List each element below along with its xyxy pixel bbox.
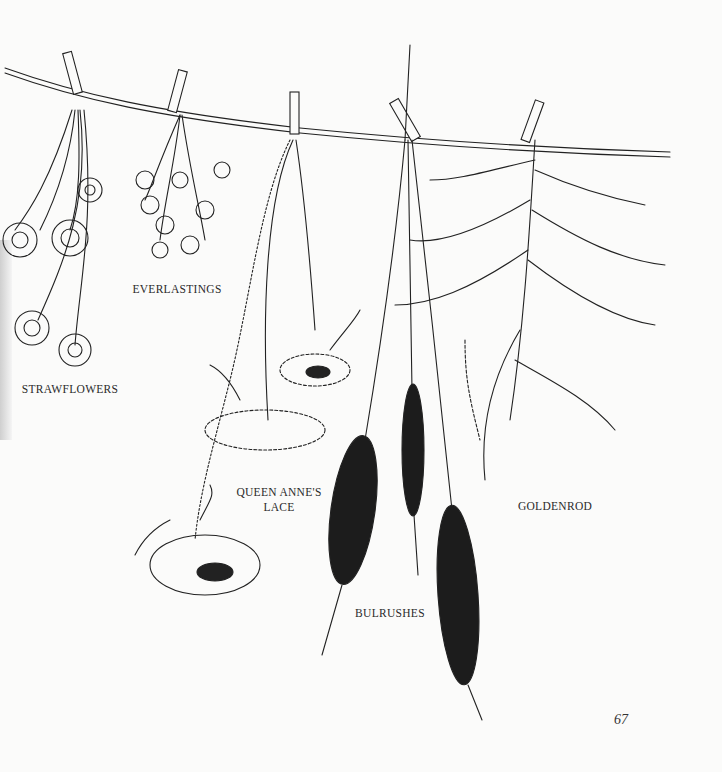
label-goldenrod: GOLDENROD: [510, 499, 600, 514]
label-queen-annes-lace: QUEEN ANNE'S LACE: [224, 485, 334, 515]
strawflowers-drawing: [3, 110, 102, 366]
goldenrod-drawing: [395, 140, 665, 480]
clothesline: [5, 68, 670, 152]
label-strawflowers: STRAWFLOWERS: [15, 382, 125, 397]
queen-annes-lace-drawing: [135, 140, 360, 595]
everlastings-drawing: [136, 115, 230, 258]
label-queen-annes-lace-line1: QUEEN ANNE'S: [224, 485, 334, 500]
page-number: 67: [614, 712, 628, 728]
book-page: EVERLASTINGS STRAWFLOWERS QUEEN ANNE'S L…: [0, 0, 722, 772]
label-bulrushes: BULRUSHES: [350, 606, 430, 621]
label-everlastings: EVERLASTINGS: [127, 282, 227, 297]
label-queen-annes-lace-line2: LACE: [224, 500, 334, 515]
